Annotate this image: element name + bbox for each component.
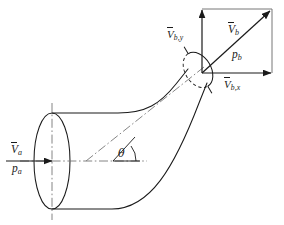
pipe-body [52,69,207,209]
angle-theta-label: θ [118,148,125,159]
resultant-velocity-arrow [202,11,270,73]
pipe-top-wall [52,69,188,113]
outlet-velocity-y-label: Vb,y [167,29,183,40]
outlet-face [173,40,223,100]
centerlines [20,67,204,220]
outlet-tick-upper [184,47,188,54]
diagram-canvas [0,0,284,225]
outlet-velocity-label: Vb [228,24,239,36]
inlet-velocity-label: Va [11,144,22,156]
outlet-tick-lower [208,86,212,93]
outlet-velocity-x-label: Vb,x [224,79,240,90]
pipe-bottom-wall [52,83,207,209]
outlet-pressure-label: pb [232,49,242,61]
inlet-pressure-label: pa [12,163,22,175]
outlet-vector-diagram [202,9,272,73]
reducing-elbow-control-volume-figure: Va pa Vb,y Vb pb Vb,x θ [0,0,284,225]
angle-arc [131,146,136,161]
outlet-ellipse-front [188,47,219,86]
inclined-axis-centerline [86,67,204,161]
